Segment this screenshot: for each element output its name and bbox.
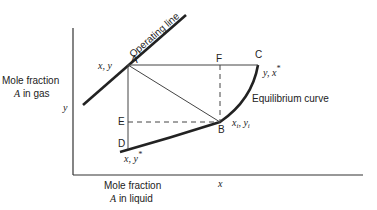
- equilibrium-curve: [120, 65, 258, 152]
- y-axis-label-rest: in gas: [20, 88, 49, 99]
- point-d-annotation: x, y*: [123, 150, 142, 164]
- point-b-annotation: xi, yi: [231, 117, 250, 130]
- diagram-canvas: Mole fraction A in gas y Mole fraction A…: [0, 0, 377, 210]
- point-c-annotation-text: y, x: [262, 67, 277, 78]
- point-e-label: E: [118, 116, 125, 127]
- point-c-annotation: y, x*: [262, 64, 280, 78]
- equilibrium-curve-label: Equilibrium curve: [252, 93, 329, 104]
- x-axis-label-line2: A in liquid: [109, 193, 153, 204]
- point-b-label: B: [218, 124, 225, 135]
- x-axis-label-line1: Mole fraction: [104, 180, 161, 191]
- operating-line-label: Operating line: [127, 10, 182, 59]
- point-c-annotation-sup: *: [276, 64, 280, 73]
- point-d-annotation-sup: *: [138, 150, 142, 159]
- point-c-label: C: [255, 49, 262, 60]
- point-f-label: F: [216, 53, 222, 64]
- y-axis-label-line1: Mole fraction: [2, 75, 59, 86]
- point-d-annotation-text: x, y: [123, 153, 138, 164]
- point-b-sub2: i: [248, 122, 250, 130]
- x-symbol: x: [217, 178, 223, 189]
- tie-line-a-b: [128, 65, 220, 122]
- y-axis-label-line2: A in gas: [13, 88, 50, 99]
- y-symbol: y: [62, 102, 68, 113]
- x-axis-label-rest: in liquid: [116, 193, 153, 204]
- point-a-annotation: x, y: [97, 60, 112, 71]
- point-a-label: A: [131, 54, 138, 65]
- point-d-label: D: [118, 138, 125, 149]
